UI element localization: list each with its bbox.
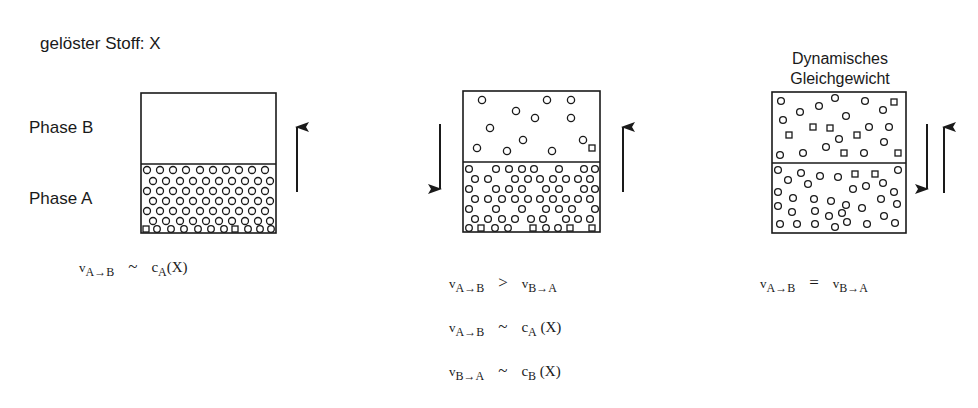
operator: ~ <box>498 317 507 337</box>
rate-subscript: A→B <box>456 281 485 295</box>
rate-subscript: A→B <box>767 281 796 295</box>
concentration-subscript: A <box>528 325 537 339</box>
equation-3-1: vA→B=vB→A <box>760 273 868 296</box>
operator: = <box>809 273 819 293</box>
panel-equilibrium <box>772 92 944 233</box>
rate-subscript: A→B <box>86 265 115 279</box>
concentration-argument: (X) <box>167 259 188 275</box>
particles-phase-a-2 <box>466 166 599 232</box>
concentration-subscript: A <box>158 265 167 279</box>
operator: ~ <box>128 257 137 277</box>
rate-subscript: B→A <box>456 369 485 383</box>
panel-initial <box>141 93 297 233</box>
operator: ~ <box>498 361 507 381</box>
rate-subscript: B→A <box>839 281 868 295</box>
particles-phase-a-1 <box>143 167 274 233</box>
concentration-subscript: B <box>528 369 536 383</box>
equation-2-3: vB→A~cB (X) <box>449 361 561 384</box>
particles-phase-a-3 <box>775 167 902 231</box>
panel-intermediate <box>440 91 623 232</box>
particles-phase-b-2 <box>473 96 595 154</box>
concentration-argument: (X) <box>537 319 562 335</box>
concentration-argument: (X) <box>536 363 561 379</box>
operator: > <box>498 273 508 293</box>
diagram-graphics <box>0 0 978 408</box>
particles-phase-b-3 <box>777 95 901 159</box>
rate-subscript: A→B <box>456 325 485 339</box>
equation-2-1: vA→B>vB→A <box>449 273 557 296</box>
rate-subscript: B→A <box>528 281 557 295</box>
equation-1-1: vA→B~cA(X) <box>79 257 188 280</box>
equation-2-2: vA→B~cA (X) <box>449 317 561 340</box>
